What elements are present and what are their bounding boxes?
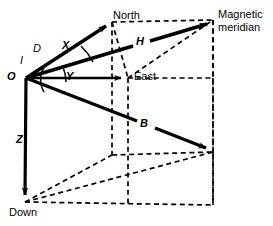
vector-z-vertical-component bbox=[25, 78, 26, 195]
label-inclination-I: I bbox=[20, 54, 23, 67]
cube-edge-bottom-left-diag bbox=[25, 155, 112, 202]
magnetic-meridian-line-2: meridian bbox=[218, 21, 263, 34]
cube-edge-bottom-back bbox=[112, 152, 213, 155]
label-horizontal-intensity-H: H bbox=[136, 35, 144, 48]
vectors bbox=[25, 24, 207, 195]
magnetic-meridian-line-1: Magnetic bbox=[218, 8, 263, 21]
vector-b-total-field-segment-2 bbox=[155, 128, 206, 148]
label-north-component-X: X bbox=[62, 39, 69, 52]
vector-h-horizontal-segment-2 bbox=[150, 24, 207, 41]
label-vertical-component-Z: Z bbox=[16, 133, 23, 146]
label-declination-D: D bbox=[33, 42, 41, 55]
label-down: Down bbox=[9, 206, 37, 219]
cube-edge-bottom-front bbox=[25, 202, 213, 205]
label-total-field-B: B bbox=[140, 117, 148, 130]
label-magnetic-meridian: Magnetic meridian bbox=[218, 8, 263, 34]
label-north: North bbox=[113, 9, 140, 22]
label-east-component-Y: Y bbox=[66, 70, 73, 83]
label-east: East bbox=[134, 70, 156, 83]
vector-b-total-field-segment-1 bbox=[26, 78, 137, 121]
cube-edge-bottom-inner-diag bbox=[25, 152, 213, 202]
geomagnetic-field-diagram: O I D X Y Z H B North East Down Magnetic… bbox=[0, 0, 273, 226]
label-origin: O bbox=[7, 70, 16, 83]
